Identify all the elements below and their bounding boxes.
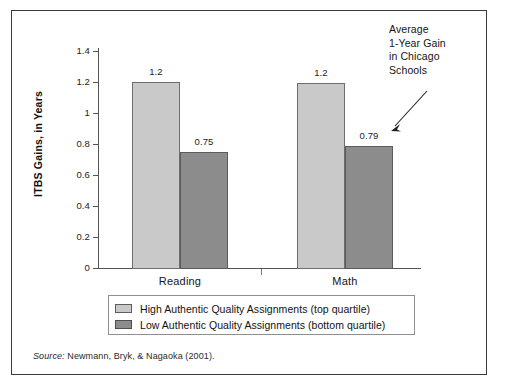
y-tick-label: 1 <box>50 107 90 118</box>
y-tick-label: 0.6 <box>50 169 90 180</box>
bar-value-reading-high-quality: 1.2 <box>126 66 186 77</box>
y-tick-label: 0.4 <box>50 200 90 211</box>
figure-container: ITBS Gains, in Years 1.4 1.2 1 0.8 0.6 0… <box>0 0 506 390</box>
legend-swatch-light-icon <box>115 304 132 313</box>
y-axis-line <box>98 48 99 269</box>
legend-item-high-quality[interactable]: High Authentic Quality Assignments (top … <box>115 300 370 317</box>
x-category-label-reading: Reading <box>110 275 250 287</box>
bar-math-low-quality[interactable] <box>345 146 393 269</box>
y-tick-0: 0 <box>46 262 90 274</box>
y-tick-label: 0.8 <box>50 138 90 149</box>
y-tick-0.4: 0.4 <box>46 200 90 212</box>
y-tick-0.6: 0.6 <box>46 169 90 181</box>
bar-value-math-high-quality: 1.2 <box>291 67 351 78</box>
y-tick-0.8: 0.8 <box>46 138 90 150</box>
y-tick-label: 1.4 <box>50 45 90 56</box>
y-tick-1.2: 1.2 <box>46 76 90 88</box>
bar-value-reading-low-quality: 0.75 <box>174 136 234 147</box>
bar-math-high-quality[interactable] <box>297 83 345 269</box>
bar-value-math-low-quality: 0.79 <box>339 130 399 141</box>
y-tick-1: 1 <box>46 107 90 119</box>
annotation-line-4: Schools <box>389 64 481 78</box>
y-tick-label: 0 <box>50 262 90 273</box>
y-tick-label: 0.2 <box>50 231 90 242</box>
average-gain-annotation: Average 1-Year Gain in Chicago Schools <box>389 23 481 77</box>
y-tick-label: 1.2 <box>50 76 90 87</box>
legend-label-high-quality: High Authentic Quality Assignments (top … <box>140 303 370 315</box>
y-tick-0.2: 0.2 <box>46 231 90 243</box>
legend-swatch-dark-icon <box>115 320 132 329</box>
source-note-text: Newmann, Bryk, & Nagaoka (2001). <box>65 351 215 361</box>
legend-item-low-quality[interactable]: Low Authentic Quality Assignments (botto… <box>115 316 385 333</box>
annotation-line-1: Average <box>389 23 481 37</box>
source-note-prefix: Source: <box>33 351 65 361</box>
legend-label-low-quality: Low Authentic Quality Assignments (botto… <box>140 319 385 331</box>
chart-legend: High Authentic Quality Assignments (top … <box>108 295 415 335</box>
x-axis-group-separator-tick <box>261 269 262 275</box>
bar-reading-low-quality[interactable] <box>180 152 228 269</box>
bar-reading-high-quality[interactable] <box>132 82 180 269</box>
y-axis-title: ITBS Gains, in Years <box>32 69 44 219</box>
source-note: Source: Newmann, Bryk, & Nagaoka (2001). <box>33 351 215 361</box>
annotation-line-2: 1-Year Gain <box>389 37 481 51</box>
x-category-label-math: Math <box>275 275 415 287</box>
annotation-line-3: in Chicago <box>389 50 481 64</box>
y-tick-1.4: 1.4 <box>46 45 90 57</box>
